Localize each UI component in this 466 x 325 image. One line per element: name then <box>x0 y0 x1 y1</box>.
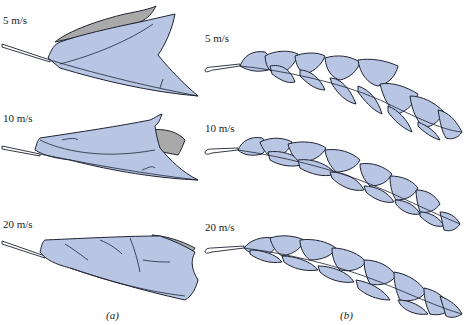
speed-label-b-20: 20 m/s <box>205 221 235 233</box>
leaf-b-20ms <box>205 236 462 317</box>
speed-label-a-20: 20 m/s <box>3 218 33 230</box>
leaf-a-5ms <box>2 6 198 96</box>
speed-label-a-10: 10 m/s <box>3 112 33 124</box>
panel-caption-b: (b) <box>340 309 353 321</box>
figure: .f { fill: #b8c6e4; stroke: #1f2433; str… <box>0 0 466 325</box>
leaf-b-10ms <box>205 138 460 231</box>
leaf-a-20ms <box>2 235 198 300</box>
speed-label-a-5: 5 m/s <box>3 14 27 26</box>
leaf-b-5ms <box>205 51 462 140</box>
panel-caption-a: (a) <box>106 309 119 321</box>
speed-label-b-5: 5 m/s <box>205 32 229 44</box>
figure-drawing: .f { fill: #b8c6e4; stroke: #1f2433; str… <box>0 0 466 325</box>
speed-label-b-10: 10 m/s <box>205 122 235 134</box>
